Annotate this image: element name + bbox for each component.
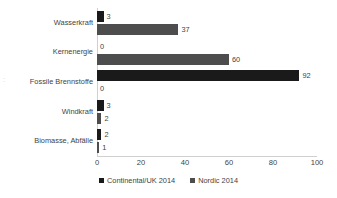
legend-swatch-icon <box>190 178 195 183</box>
bar-value-label: 37 <box>181 25 189 34</box>
x-tick-label: 40 <box>181 158 189 168</box>
category-label: Biomasse, Abfälle <box>0 136 93 145</box>
bar <box>97 11 104 22</box>
bar-value-label: 0 <box>100 84 104 93</box>
bar-chart: : WasserkraftKernenergieFossile Brennsto… <box>0 0 337 198</box>
bar-value-label: 60 <box>232 55 240 64</box>
bar <box>97 129 101 140</box>
legend-swatch-icon <box>99 178 104 183</box>
category-label: Kernenergie <box>0 47 93 56</box>
legend-item[interactable]: Continental/UK 2014 <box>99 176 175 185</box>
x-axis-tick-labels: 020406080100 <box>97 158 317 170</box>
bar-group: 337 <box>97 11 317 38</box>
bar <box>97 100 104 111</box>
category-label: Fossile Brennstoffe <box>0 77 93 86</box>
legend-label: Nordic 2014 <box>198 176 238 185</box>
bar-value-label: 3 <box>107 12 111 21</box>
chart-legend: Continental/UK 2014Nordic 2014 <box>0 176 337 185</box>
bar-value-label: 3 <box>107 101 111 110</box>
legend-item[interactable]: Nordic 2014 <box>190 176 238 185</box>
bar-group: 21 <box>97 129 317 156</box>
x-axis-line <box>97 156 317 157</box>
category-axis-labels: WasserkraftKernenergieFossile Brennstoff… <box>0 8 93 156</box>
bar-group: 920 <box>97 70 317 97</box>
bar-value-label: 92 <box>302 71 310 80</box>
x-tick-label: 0 <box>95 158 99 168</box>
bar <box>97 24 178 35</box>
bar-value-label: 1 <box>102 143 106 152</box>
bar <box>97 113 101 124</box>
bar-value-label: 0 <box>100 42 104 51</box>
category-label: Windkraft <box>0 107 93 116</box>
bar-value-label: 2 <box>104 114 108 123</box>
bar-group: 060 <box>97 41 317 68</box>
legend-label: Continental/UK 2014 <box>107 176 175 185</box>
x-tick-label: 60 <box>225 158 233 168</box>
bar-group: 32 <box>97 100 317 127</box>
bar <box>97 54 229 65</box>
x-tick-label: 100 <box>311 158 324 168</box>
bar-value-label: 2 <box>104 130 108 139</box>
plot-area: 3370609203221 <box>97 8 317 156</box>
x-tick-label: 20 <box>137 158 145 168</box>
bar <box>97 142 99 153</box>
category-label: Wasserkraft <box>0 18 93 27</box>
bar <box>97 70 299 81</box>
x-tick-label: 80 <box>269 158 277 168</box>
